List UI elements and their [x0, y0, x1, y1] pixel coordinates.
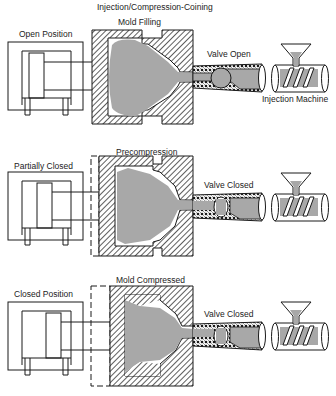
panel-mold-filling — [8, 30, 329, 124]
clamp-unit — [8, 172, 99, 245]
diagram-canvas — [0, 0, 336, 396]
panel-mold-compressed — [8, 286, 329, 386]
diagram-title: Injection/Compression-Coining — [97, 3, 213, 12]
valve-label-closed: Valve Closed — [204, 181, 253, 190]
injection-machine-label: Injection Machine — [262, 95, 328, 104]
valve-open — [193, 64, 266, 92]
mold — [110, 286, 193, 386]
valve-label-closed: Valve Closed — [204, 310, 253, 319]
valve-closed — [193, 193, 266, 221]
mold — [92, 30, 193, 124]
stage-label-mold-filling: Mold Filling — [118, 18, 161, 27]
parting-line-dashed — [91, 286, 110, 386]
clamp-label-partially-closed: Partially Closed — [14, 162, 73, 171]
injection-machine — [272, 173, 329, 221]
injection-machine — [272, 44, 329, 92]
stage-label-mold-compressed: Mold Compressed — [116, 276, 185, 285]
stage-label-precompression: Precompression — [116, 148, 177, 157]
parting-line-dashed — [91, 156, 99, 256]
clamp-label-open-position: Open Position — [19, 30, 72, 39]
mold — [99, 156, 193, 256]
valve-closed — [193, 322, 266, 350]
clamp-unit — [8, 302, 110, 375]
injection-machine — [272, 302, 329, 350]
valve-label-open: Valve Open — [207, 50, 251, 59]
clamp-unit — [8, 42, 92, 115]
clamp-label-closed-position: Closed Position — [14, 290, 73, 299]
panel-precompression — [8, 156, 329, 256]
